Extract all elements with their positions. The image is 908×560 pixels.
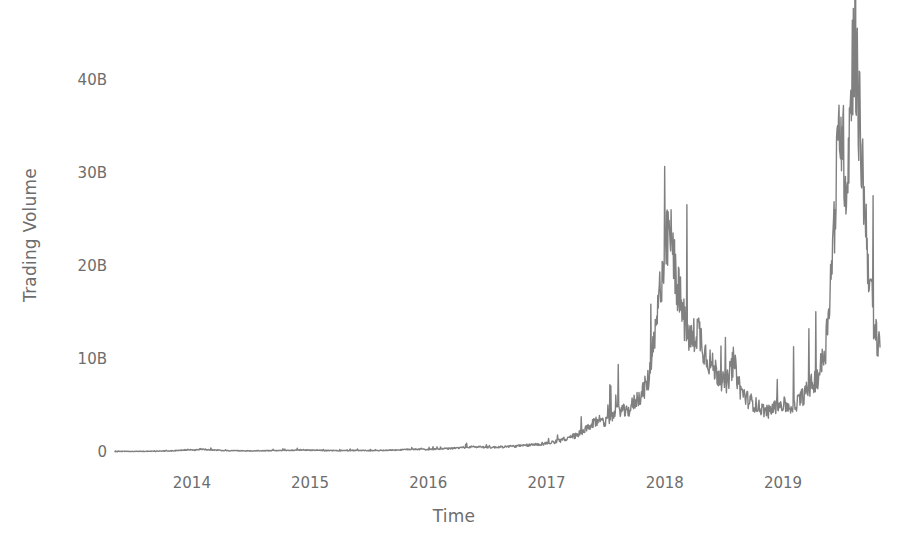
plot-area: [0, 0, 908, 560]
chart-container: Trading Volume 010B20B30B40B 20142015201…: [0, 0, 908, 560]
volume-line-series: [115, 0, 880, 452]
x-axis-label: Time: [0, 506, 908, 526]
